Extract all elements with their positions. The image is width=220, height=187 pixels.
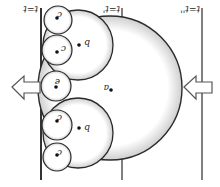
label-t: t=t xyxy=(23,4,38,14)
point-b-top xyxy=(77,43,81,47)
label-t-double-prime: t=t'' xyxy=(180,4,200,14)
arrow-left-icon xyxy=(12,76,40,99)
point-c2 xyxy=(55,50,59,54)
label-c1: c xyxy=(57,10,62,20)
label-a: a xyxy=(104,83,109,93)
label-b-top: b xyxy=(84,38,90,48)
diagram-canvas: t=t t=t' t=t'' a b b c c e c c xyxy=(0,0,220,187)
point-b-bottom xyxy=(77,126,81,130)
label-c2: c xyxy=(61,44,66,54)
label-e: e xyxy=(55,77,60,87)
small-circle-c2 xyxy=(42,35,72,65)
label-b-bottom: b xyxy=(84,123,90,133)
arrow-right-icon xyxy=(184,76,212,99)
label-c3: c xyxy=(57,113,62,123)
wavefront-diagram: t=t t=t' t=t'' a b b c c e c c xyxy=(0,0,220,187)
label-t-prime: t=t' xyxy=(103,4,120,14)
label-c4: c xyxy=(57,148,62,158)
